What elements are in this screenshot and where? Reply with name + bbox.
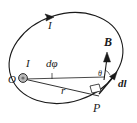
label-field-vector-b: B [104, 36, 112, 48]
label-current-center: I [26, 58, 30, 69]
label-origin: O [8, 74, 16, 85]
magnetic-field-vector-arrow [104, 52, 111, 80]
label-element-vector-dl: dl [118, 78, 127, 89]
loop-center-dot [19, 74, 28, 83]
current-loop-ellipse [0, 0, 135, 118]
right-angle-marker-icon [90, 84, 101, 93]
label-dl-l: l [124, 77, 127, 89]
label-d-phi: dφ [46, 58, 58, 69]
horizontal-reference-line [24, 73, 105, 79]
label-point-p: P [93, 102, 100, 114]
physics-diagram-figure: I I O dφ r B θ dl P [0, 0, 137, 123]
label-current-top: I [48, 20, 52, 31]
label-radius: r [61, 85, 65, 96]
diagram-canvas [0, 0, 137, 123]
label-angle-theta: θ [98, 70, 102, 78]
